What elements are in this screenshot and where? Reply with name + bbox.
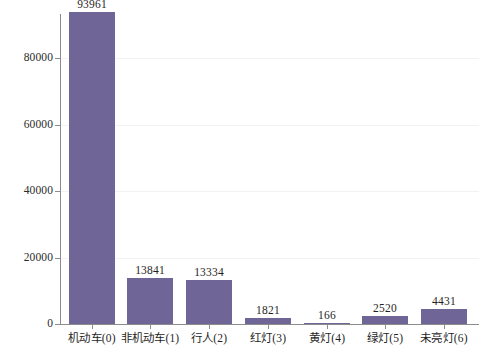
bar-value-5: 2520 bbox=[373, 302, 397, 314]
x-label-4: 黄灯(4) bbox=[309, 331, 345, 345]
bar-group-5[interactable]: 2520 bbox=[362, 14, 408, 324]
x-tick-mark-4 bbox=[327, 325, 328, 329]
bar-value-6: 4431 bbox=[432, 295, 456, 307]
y-tick-mark-20000 bbox=[55, 258, 60, 259]
bar-group-4[interactable]: 166 bbox=[304, 14, 350, 324]
x-tick-mark-0 bbox=[92, 325, 93, 329]
bar-group-0[interactable]: 93961 bbox=[69, 14, 115, 324]
x-label-0: 机动车(0) bbox=[68, 331, 116, 345]
y-tick-label-20000: 20000 bbox=[1, 252, 53, 264]
bar-value-3: 1821 bbox=[256, 304, 280, 316]
x-label-6: 未亮灯(6) bbox=[420, 331, 468, 345]
x-tick-mark-5 bbox=[385, 325, 386, 329]
x-tick-mark-6 bbox=[444, 325, 445, 329]
bar-value-0: 93961 bbox=[77, 0, 107, 10]
x-tick-mark-3 bbox=[268, 325, 269, 329]
bar-group-3[interactable]: 1821 bbox=[245, 14, 291, 324]
y-tick-mark-60000 bbox=[55, 125, 60, 126]
bar-0[interactable] bbox=[69, 12, 115, 324]
x-tick-mark-2 bbox=[209, 325, 210, 329]
bar-group-6[interactable]: 4431 bbox=[421, 14, 467, 324]
bar-chart: 80000 60000 40000 20000 0 93961 13841 13… bbox=[0, 0, 483, 353]
bar-2[interactable] bbox=[186, 280, 232, 324]
bar-group-1[interactable]: 13841 bbox=[127, 14, 173, 324]
y-tick-mark-40000 bbox=[55, 191, 60, 192]
bar-3[interactable] bbox=[245, 318, 291, 324]
y-tick-label-60000: 60000 bbox=[1, 119, 53, 131]
bar-5[interactable] bbox=[362, 316, 408, 324]
y-tick-mark-0 bbox=[55, 324, 60, 325]
y-tick-label-0: 0 bbox=[1, 318, 53, 330]
bar-4[interactable] bbox=[304, 323, 350, 324]
y-tick-label-80000: 80000 bbox=[1, 52, 53, 64]
bar-group-2[interactable]: 13334 bbox=[186, 14, 232, 324]
x-label-2: 行人(2) bbox=[191, 331, 227, 345]
x-label-3: 红灯(3) bbox=[250, 331, 286, 345]
y-tick-mark-80000 bbox=[55, 58, 60, 59]
bar-value-1: 13841 bbox=[135, 264, 165, 276]
y-axis-line bbox=[60, 14, 61, 325]
bar-1[interactable] bbox=[127, 278, 173, 324]
x-axis-line bbox=[60, 324, 479, 325]
bar-value-4: 166 bbox=[318, 309, 336, 321]
bar-value-2: 13334 bbox=[194, 266, 224, 278]
x-tick-mark-1 bbox=[150, 325, 151, 329]
bar-6[interactable] bbox=[421, 309, 467, 324]
y-tick-label-40000: 40000 bbox=[1, 185, 53, 197]
x-label-5: 绿灯(5) bbox=[367, 331, 403, 345]
x-label-1: 非机动车(1) bbox=[121, 331, 180, 345]
